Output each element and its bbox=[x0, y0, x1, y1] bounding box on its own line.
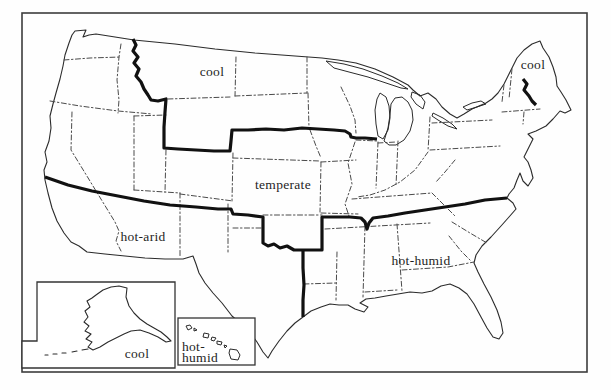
hawaii-inset-label-line2: humid bbox=[182, 350, 218, 365]
region-label-hot-arid: hot-arid bbox=[120, 229, 165, 244]
climate-boundary-texas-east bbox=[303, 250, 304, 317]
climate-boundary-maine bbox=[523, 79, 536, 105]
climate-zone-map-figure: cool cool temperate hot-arid hot-humid c… bbox=[0, 0, 611, 390]
region-label-cool-north: cool bbox=[200, 64, 224, 79]
lake-ontario bbox=[463, 101, 486, 110]
lake-superior bbox=[326, 61, 408, 89]
region-label-hot-humid: hot-humid bbox=[392, 253, 451, 268]
region-label-temperate: temperate bbox=[255, 177, 311, 192]
region-label-cool-maine: cool bbox=[521, 57, 545, 72]
alaska-inset-label: cool bbox=[125, 346, 149, 361]
alaska-inset: cool bbox=[22, 282, 175, 368]
us-climate-map: cool cool temperate hot-arid hot-humid c… bbox=[0, 0, 611, 390]
hawaii-inset: hot- humid bbox=[178, 318, 255, 365]
lake-michigan bbox=[375, 93, 390, 139]
state-borders bbox=[50, 44, 540, 300]
